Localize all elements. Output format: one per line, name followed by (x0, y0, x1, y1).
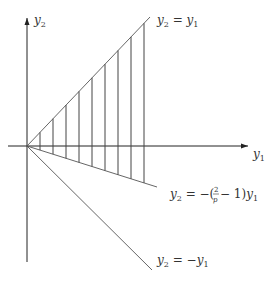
svg-text:− 1)y1: − 1)y1 (220, 187, 258, 203)
y1-axis-label: y1 (252, 147, 265, 163)
line-y2-eq-neg-y1 (27, 146, 152, 270)
svg-text:y2 = −(: y2 = −( (169, 187, 214, 203)
svg-text:2: 2 (214, 186, 218, 194)
label-y2-eq-neg-y1: y2 = −y1 (156, 253, 209, 269)
label-y2-eq-y1: y2 = y1 (156, 13, 198, 29)
hatch-lines (40, 23, 144, 183)
line-y2-eq-y1 (27, 17, 150, 146)
y2-axis-label: y2 (33, 13, 46, 29)
cone-diagram: y2 y1 y2 = y1 y2 = −( 2 p − 1)y1 y2 = −y… (0, 0, 278, 286)
label-y2-eq-neg-frac-y1: y2 = −( 2 p − 1)y1 (169, 186, 258, 204)
svg-text:p: p (213, 196, 218, 204)
